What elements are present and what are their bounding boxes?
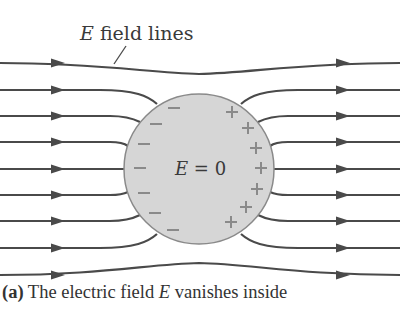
interior-value: = 0 (188, 158, 226, 179)
arrowhead-icon (51, 217, 65, 226)
arrowhead-icon (51, 165, 65, 174)
field-line (0, 142, 128, 146)
field-line (0, 215, 140, 221)
arrowhead-icon (51, 86, 65, 95)
field-line (0, 116, 140, 122)
label-symbol: E (79, 22, 94, 44)
field-lines-label: E field lines (79, 22, 194, 44)
field-line (258, 116, 400, 122)
caption-text-1: The electric field (24, 282, 159, 302)
arrowhead-icon (336, 138, 350, 147)
arrowhead-icon (336, 191, 350, 200)
arrowhead-icon (51, 191, 65, 200)
caption-tag: (a) (2, 282, 24, 302)
arrowhead-icon (336, 165, 350, 174)
field-diagram: E field lines E = 0 (0, 0, 411, 312)
field-line (0, 192, 128, 195)
interior-symbol: E (174, 158, 188, 179)
arrowhead-icon (336, 217, 350, 226)
arrowhead-icon (336, 59, 350, 68)
interior-field-label: E = 0 (174, 158, 226, 179)
arrowhead-icon (51, 112, 65, 121)
caption-text-2: vanishes inside (170, 282, 287, 302)
field-line (270, 192, 400, 195)
arrowhead-icon (336, 86, 350, 95)
figure-caption: (a) The electric field E vanishes inside (2, 282, 287, 303)
arrowhead-icon (51, 59, 65, 68)
label-text: field lines (94, 22, 194, 44)
arrowhead-icon (51, 138, 65, 147)
label-pointer-line (114, 46, 126, 64)
field-line (270, 142, 400, 146)
arrowhead-icon (51, 271, 65, 280)
caption-symbol: E (159, 282, 170, 302)
field-line (0, 90, 157, 104)
field-line (241, 90, 400, 104)
arrowhead-icon (336, 271, 350, 280)
field-line (258, 215, 400, 221)
arrowhead-icon (336, 244, 350, 253)
field-line (241, 234, 400, 248)
arrowhead-icon (336, 112, 350, 121)
arrowhead-icon (51, 244, 65, 253)
field-line (0, 234, 157, 248)
